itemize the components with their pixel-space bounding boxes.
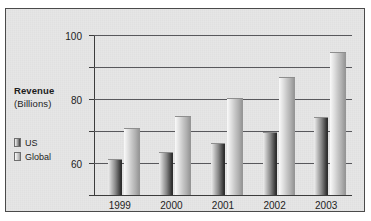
global-swatch-icon — [14, 152, 21, 161]
x-tick-label-2003: 2003 — [300, 200, 352, 211]
bar-global-2001 — [227, 98, 243, 195]
y-axis-title-line-1: Revenue — [14, 85, 82, 98]
bar-global-1999 — [124, 128, 140, 195]
bar-us-2001 — [211, 143, 225, 195]
us-swatch-icon — [14, 138, 21, 147]
bar-global-2000 — [175, 116, 191, 195]
chart-legend: US Global — [14, 136, 84, 164]
y-tick-0: 0 — [89, 195, 94, 196]
bar-global-2002 — [279, 77, 295, 195]
x-tick-label-2001: 2001 — [197, 200, 249, 211]
bar-group-1999 — [94, 35, 146, 195]
bar-group-2003 — [300, 35, 352, 195]
bar-group-2002 — [249, 35, 301, 195]
bar-group-2001 — [197, 35, 249, 195]
plot-canvas: 020406080100 19992000200120022003 — [94, 35, 352, 195]
legend-label-global: Global — [25, 152, 51, 162]
bar-global-2003 — [330, 52, 346, 195]
plot-area: 020406080100 19992000200120022003 — [89, 27, 357, 202]
y-tick-label-100: 100 — [65, 31, 82, 42]
x-tick-label-1999: 1999 — [94, 200, 146, 211]
bar-us-2003 — [314, 117, 328, 195]
x-axis-line — [94, 195, 352, 196]
y-axis-title-line-2: (Billions) — [14, 98, 82, 111]
x-tick-label-2000: 2000 — [146, 200, 198, 211]
x-tick-label-2002: 2002 — [249, 200, 301, 211]
y-axis-title: Revenue (Billions) — [14, 85, 82, 110]
chart-figure: Revenue (Billions) US Global 02040608010… — [5, 8, 365, 212]
bar-us-2000 — [159, 152, 173, 195]
legend-label-us: US — [25, 138, 38, 148]
bar-group-2000 — [146, 35, 198, 195]
bar-us-1999 — [108, 159, 122, 195]
bar-us-2002 — [263, 132, 277, 195]
legend-item-us: US — [14, 136, 84, 149]
legend-item-global: Global — [14, 150, 84, 163]
